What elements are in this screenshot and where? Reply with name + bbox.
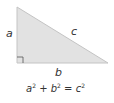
formula-equals: =	[61, 83, 76, 94]
right-triangle	[17, 7, 108, 63]
formula-b-exp: 2	[57, 82, 61, 89]
side-c-label: c	[71, 26, 77, 37]
side-b-label: b	[55, 67, 62, 78]
formula-plus: +	[36, 83, 51, 94]
formula-c-exp: 2	[81, 82, 85, 89]
pythagorean-formula: a2 + b2 = c2	[26, 84, 85, 94]
formula-a-exp: 2	[32, 82, 36, 89]
side-a-label: a	[6, 28, 13, 39]
